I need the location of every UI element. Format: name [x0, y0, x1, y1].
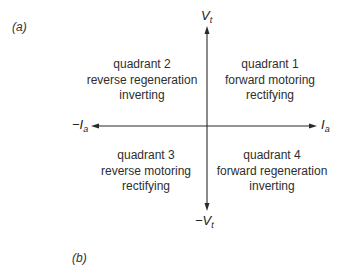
quadrant-3-title: quadrant 3 — [101, 148, 191, 164]
arrow-left-icon — [91, 124, 99, 129]
quadrant-4-title: quadrant 4 — [217, 148, 328, 164]
quadrant-3-converter: rectifying — [101, 179, 191, 195]
quadrant-1-title: quadrant 1 — [225, 57, 315, 73]
quadrant-1-converter: rectifying — [225, 88, 315, 104]
quadrant-4-mode: forward regeneration — [217, 164, 328, 180]
quadrant-3: quadrant 3 reverse motoring rectifying — [101, 148, 191, 195]
axis-label-ia: Ia — [321, 117, 330, 134]
arrow-up-icon — [205, 26, 210, 34]
arrow-right-icon — [309, 124, 317, 129]
quadrant-2: quadrant 2 reverse regeneration invertin… — [87, 57, 198, 104]
quadrant-3-mode: reverse motoring — [101, 164, 191, 180]
quadrant-4: quadrant 4 forward regeneration invertin… — [217, 148, 328, 195]
axis-label-neg-vt: −Vt — [195, 213, 214, 230]
axis-label-neg-ia: −Ia — [72, 117, 88, 134]
quadrant-4-converter: inverting — [217, 179, 328, 195]
quadrant-1: quadrant 1 forward motoring rectifying — [225, 57, 315, 104]
quadrant-2-converter: inverting — [87, 88, 198, 104]
quadrant-2-title: quadrant 2 — [87, 57, 198, 73]
arrow-down-icon — [205, 203, 210, 211]
quadrant-2-mode: reverse regeneration — [87, 73, 198, 89]
quadrant-1-mode: forward motoring — [225, 73, 315, 89]
axis-label-vt: Vt — [201, 8, 212, 25]
